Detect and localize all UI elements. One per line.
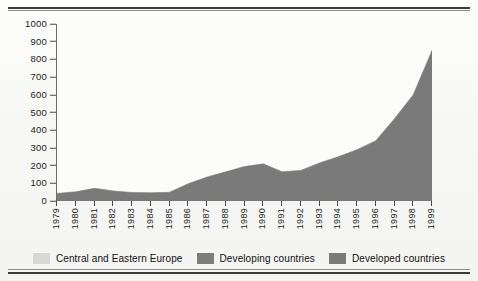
x-axis-tick-mark bbox=[300, 201, 301, 206]
x-axis-tick-mark bbox=[337, 201, 338, 206]
x-axis-tick-mark bbox=[225, 201, 226, 206]
x-axis-tick-label: 1990 bbox=[257, 208, 267, 229]
y-axis: 01002003004005006007008009001000 bbox=[0, 24, 56, 202]
x-axis-tick-mark bbox=[262, 201, 263, 206]
legend-label: Developed countries bbox=[352, 253, 445, 264]
x-axis-tick-label: 1985 bbox=[164, 208, 174, 229]
legend-swatch bbox=[33, 253, 50, 264]
x-axis-tick-mark bbox=[319, 201, 320, 206]
x-axis-tick-label: 1983 bbox=[126, 208, 136, 229]
x-axis-tick-label: 1993 bbox=[314, 208, 324, 229]
x-axis-tick-mark bbox=[431, 201, 432, 206]
y-axis-tick: 0 bbox=[2, 196, 56, 206]
y-axis-tick: 800 bbox=[2, 55, 56, 65]
x-axis-tick-mark bbox=[131, 201, 132, 206]
area-series-svg bbox=[57, 24, 432, 201]
y-axis-tick: 600 bbox=[2, 90, 56, 100]
x-axis-tick-mark bbox=[356, 201, 357, 206]
x-axis-tick-label: 1984 bbox=[145, 208, 155, 229]
x-axis-tick-mark bbox=[412, 201, 413, 206]
x-axis-tick-label: 1989 bbox=[239, 208, 249, 229]
y-axis-tick: 700 bbox=[2, 72, 56, 82]
x-axis-tick-mark bbox=[150, 201, 151, 206]
x-axis-tick-mark bbox=[56, 201, 57, 206]
y-axis-tick: 300 bbox=[2, 143, 56, 153]
x-axis-tick-mark bbox=[244, 201, 245, 206]
legend-item: Central and Eastern Europe bbox=[33, 253, 183, 264]
x-axis-tick-label: 1991 bbox=[276, 208, 286, 229]
y-axis-tick: 500 bbox=[2, 108, 56, 118]
x-axis-tick-label: 1992 bbox=[295, 208, 305, 229]
x-axis-tick-label: 1997 bbox=[389, 208, 399, 229]
x-axis-tick-mark bbox=[281, 201, 282, 206]
x-axis-tick-mark bbox=[169, 201, 170, 206]
x-axis-tick-label: 1980 bbox=[70, 208, 80, 229]
x-axis-tick-mark bbox=[375, 201, 376, 206]
rule-bottom bbox=[8, 272, 470, 274]
x-axis-tick-mark bbox=[112, 201, 113, 206]
x-axis-tick-label: 1999 bbox=[426, 208, 436, 229]
x-axis-tick-mark bbox=[94, 201, 95, 206]
legend-swatch bbox=[197, 253, 214, 264]
x-axis-tick-label: 1981 bbox=[89, 208, 99, 229]
y-axis-tick: 1000 bbox=[2, 19, 56, 29]
x-axis-tick-mark bbox=[394, 201, 395, 206]
x-axis-tick-label: 1986 bbox=[182, 208, 192, 229]
legend-label: Central and Eastern Europe bbox=[56, 253, 183, 264]
legend-item: Developing countries bbox=[197, 253, 315, 264]
x-axis-tick-label: 1998 bbox=[407, 208, 417, 229]
rule-top-thin bbox=[8, 10, 470, 11]
legend-item: Developed countries bbox=[329, 253, 445, 264]
figure-area-chart: 01002003004005006007008009001000 1979198… bbox=[0, 0, 478, 281]
x-axis-tick-label: 1994 bbox=[332, 208, 342, 229]
x-axis-tick-label: 1979 bbox=[51, 208, 61, 229]
rule-bottom-thin bbox=[8, 269, 470, 270]
x-axis-tick-label: 1987 bbox=[201, 208, 211, 229]
area-series bbox=[57, 51, 432, 201]
plot-area bbox=[56, 24, 431, 201]
legend-swatch bbox=[329, 253, 346, 264]
x-axis-tick-label: 1996 bbox=[370, 208, 380, 229]
y-axis-tick: 200 bbox=[2, 161, 56, 171]
x-axis-tick-mark bbox=[187, 201, 188, 206]
x-axis-tick-label: 1988 bbox=[220, 208, 230, 229]
y-axis-tick: 400 bbox=[2, 125, 56, 135]
x-axis-tick-label: 1995 bbox=[351, 208, 361, 229]
x-axis-tick-mark bbox=[206, 201, 207, 206]
x-axis-tick-label: 1982 bbox=[107, 208, 117, 229]
rule-top bbox=[8, 7, 470, 9]
x-axis-tick-mark bbox=[75, 201, 76, 206]
legend-label: Developing countries bbox=[220, 253, 315, 264]
chart-legend: Central and Eastern EuropeDeveloping cou… bbox=[8, 249, 470, 267]
y-axis-tick: 100 bbox=[2, 179, 56, 189]
x-axis: 1979198019811982198319841985198619871988… bbox=[56, 201, 431, 249]
y-axis-tick: 900 bbox=[2, 37, 56, 47]
